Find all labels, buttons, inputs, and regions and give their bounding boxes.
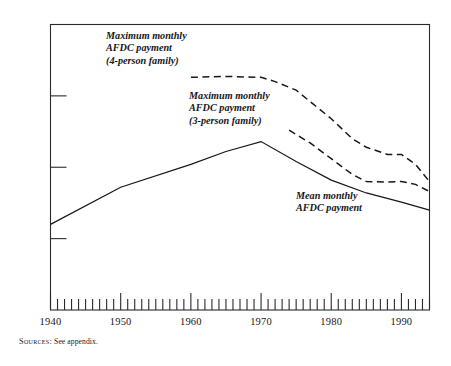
x-tick-label: 1960 (180, 316, 202, 327)
annotation-line: AFDC payment (296, 202, 362, 214)
annotation-line: Maximum monthly (189, 90, 270, 102)
annotation-max-3-person: Maximum monthly AFDC payment (3-person f… (189, 90, 270, 127)
annotation-max-4-person: Maximum monthly AFDC payment (4-person f… (106, 30, 187, 67)
annotation-line: AFDC payment (189, 102, 270, 114)
source-note-text: See appendix. (52, 337, 98, 346)
x-tick-label: 1990 (391, 316, 413, 327)
annotation-line: (3-person family) (189, 115, 270, 127)
annotation-line: AFDC payment (106, 42, 187, 54)
x-tick-label: 1980 (320, 316, 342, 327)
x-tick-label: 1950 (110, 316, 132, 327)
annotation-mean-payment: Mean monthly AFDC payment (296, 190, 362, 215)
source-note: Sources: See appendix. (19, 337, 98, 346)
source-note-label: Sources: (19, 337, 52, 346)
figure-container: 02505007501,000 194019501960197019801990… (0, 0, 451, 366)
x-axis-tick-labels: 194019501960197019801990 (0, 0, 451, 366)
annotation-line: Maximum monthly (106, 30, 187, 42)
x-tick-label: 1940 (40, 316, 62, 327)
x-tick-label: 1970 (250, 316, 272, 327)
annotation-line: (4-person family) (106, 55, 187, 67)
annotation-line: Mean monthly (296, 190, 362, 202)
